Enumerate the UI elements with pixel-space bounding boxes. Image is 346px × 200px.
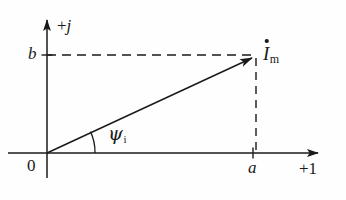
real-axis-letter: 1 [309, 159, 318, 178]
phase-angle-letter: ψ [108, 122, 123, 144]
phasor-label-letter: I [263, 44, 269, 63]
real-component-label: a [248, 159, 257, 176]
imaginary-axis-label: +j [57, 17, 71, 34]
phase-angle-label: ψi [108, 124, 126, 145]
phasor-letter-glyph: I [263, 43, 269, 64]
imaginary-axis-sign: + [57, 16, 67, 35]
real-axis-label: +1 [299, 160, 317, 177]
imaginary-axis-letter: j [67, 16, 72, 35]
phasor-diagram-canvas [0, 0, 346, 200]
real-axis-sign: + [299, 159, 309, 178]
phasor-label-subscript: m [270, 52, 279, 66]
imaginary-component-label: b [28, 45, 37, 62]
phasor-label: I m [263, 44, 279, 65]
phase-angle-subscript: i [123, 133, 126, 145]
phasor-figure: +j +1 0 b a I m ψi [0, 0, 346, 200]
phasor-vector [47, 58, 252, 153]
origin-label: 0 [27, 157, 36, 174]
phase-angle-arc [91, 132, 96, 153]
phasor-overdot-accent [265, 39, 269, 43]
